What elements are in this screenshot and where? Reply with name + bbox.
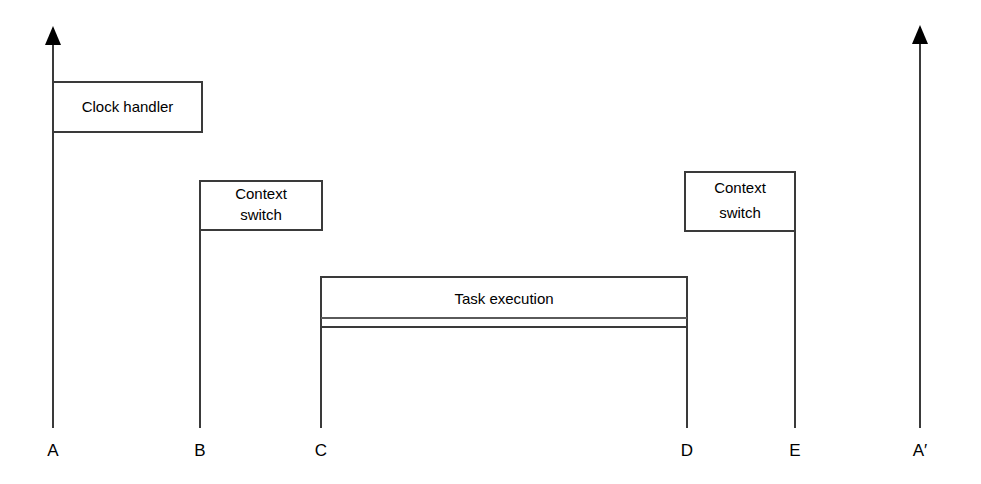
task-execution-label: Task execution [454, 290, 553, 307]
context-switch-1-box-group: Context switch [200, 181, 322, 230]
arrow-up-icon-a-prime [912, 25, 928, 44]
clock-handler-label: Clock handler [82, 98, 174, 115]
clock-handler-box-group: Clock handler [53, 82, 202, 132]
timing-diagram-canvas: Clock handler Context switch Task execut… [0, 0, 981, 484]
context-switch-2-label-line2: switch [719, 204, 761, 221]
timing-diagram-figure: Clock handler Context switch Task execut… [0, 0, 981, 484]
axis-label-b: B [194, 441, 205, 460]
context-switch-1-label-line2: switch [240, 206, 282, 223]
context-switch-1-label-line1: Context [235, 185, 288, 202]
arrow-up-icon-a [45, 26, 61, 45]
context-switch-2-box-group: Context switch [685, 172, 795, 231]
timeline-axis-labels: A B C D E A′ [47, 441, 927, 460]
context-switch-2-label-line1: Context [714, 179, 767, 196]
axis-label-a: A [47, 441, 59, 460]
task-execution-box-group: Task execution [321, 277, 687, 327]
axis-label-d: D [681, 441, 693, 460]
axis-label-e: E [789, 441, 800, 460]
axis-label-c: C [315, 441, 327, 460]
axis-label-a-prime: A′ [913, 441, 928, 460]
timeline-arrowheads [45, 25, 928, 45]
